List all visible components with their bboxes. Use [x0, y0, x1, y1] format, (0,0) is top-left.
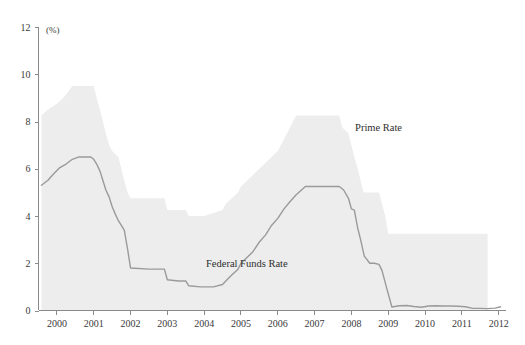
y-tick-label: 4 [26, 211, 31, 222]
x-tick-label: 2000 [47, 318, 67, 329]
x-tick-label: 2010 [415, 318, 435, 329]
rates-chart: 024681012 200020012002200320042005200620… [0, 0, 525, 345]
x-tick-label: 2006 [268, 318, 288, 329]
y-tick-label: 10 [21, 69, 31, 80]
x-tick-label: 2003 [157, 318, 177, 329]
x-tick-group: 2000200120022003200420052006200720082009… [47, 311, 509, 329]
x-tick-label: 2002 [121, 318, 141, 329]
x-tick-label: 2005 [231, 318, 251, 329]
x-tick-label: 2004 [194, 318, 214, 329]
x-tick-label: 2007 [305, 318, 325, 329]
x-tick-label: 2009 [378, 318, 398, 329]
chart-figure: 024681012 200020012002200320042005200620… [0, 0, 525, 345]
y-tick-label: 0 [26, 305, 31, 316]
x-tick-label: 2011 [452, 318, 472, 329]
y-tick-label: 12 [21, 22, 31, 33]
prime-rate-area [41, 86, 487, 310]
y-tick-label: 2 [26, 258, 31, 269]
series-annotation-label: Prime Rate [355, 122, 402, 133]
x-tick-label: 2012 [489, 318, 509, 329]
y-tick-label: 8 [26, 116, 31, 127]
x-tick-label: 2008 [341, 318, 361, 329]
y-axis-unit-label: (%) [46, 25, 60, 35]
x-tick-label: 2001 [84, 318, 104, 329]
y-tick-label: 6 [26, 163, 31, 174]
series-annotation-label: Federal Funds Rate [206, 258, 288, 269]
plot-area [41, 86, 500, 310]
y-tick-group: 024681012 [21, 22, 39, 317]
